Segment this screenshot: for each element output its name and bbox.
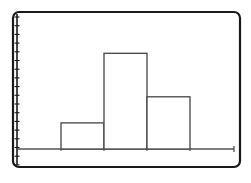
histogram-bars <box>61 53 190 151</box>
histogram-bar-2 <box>104 53 147 149</box>
histogram-chart <box>0 0 251 183</box>
histogram-bar-3 <box>147 97 190 149</box>
histogram-bar-1 <box>61 123 104 149</box>
